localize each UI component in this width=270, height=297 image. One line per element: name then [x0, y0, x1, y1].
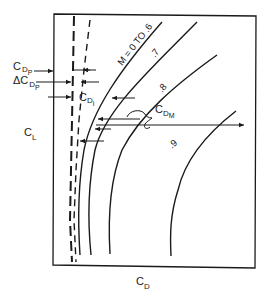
svg-text:.7: .7 [148, 46, 162, 59]
svg-text:M = 0 TO .6: M = 0 TO .6 [115, 21, 154, 67]
curve-label-m-0.8: .8 [155, 81, 168, 94]
svg-text:CDM: CDM [155, 103, 175, 119]
drag-polar-diagram: CL CD CDP ΔCDP CDi CDM M = 0 TO .6 .7 .8… [0, 0, 270, 297]
curve-label-m-0.9: .9 [166, 137, 179, 150]
svg-text:CL: CL [24, 126, 37, 142]
axis-label-cd: CD [136, 275, 150, 291]
svg-text:.9: .9 [166, 137, 179, 150]
curve-label-m-0-to-0.6: M = 0 TO .6 [115, 21, 154, 67]
svg-text:CDi: CDi [79, 91, 95, 107]
axis-label-cl: CL [24, 126, 37, 142]
label-cdi: CDi [79, 91, 95, 107]
svg-text:.8: .8 [155, 81, 168, 94]
curve-label-m-0.7: .7 [148, 46, 162, 59]
curve-m-0.9 [171, 111, 236, 256]
svg-text:CD: CD [136, 275, 150, 291]
curve-m-0.7 [89, 22, 197, 255]
label-cdm: CDM [155, 103, 175, 119]
